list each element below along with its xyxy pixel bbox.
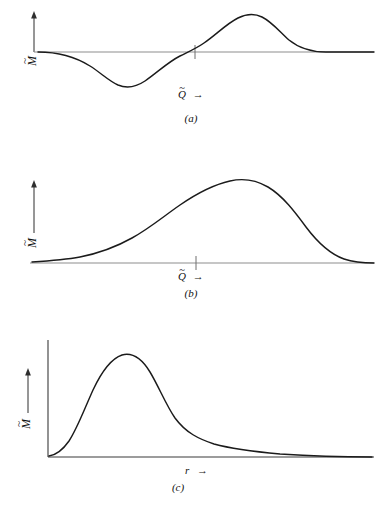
curve-c <box>49 354 372 457</box>
x-axis-label-a-symbol: Q~ <box>178 89 186 100</box>
y-axis-label-b: M~ <box>26 238 38 248</box>
y-axis-arrow-c <box>25 368 31 413</box>
panel-c: M~ r → (c) <box>0 325 383 511</box>
caption-c: (c) <box>150 482 206 493</box>
y-axis-label-a-symbol: M~ <box>26 56 38 66</box>
caption-a: (a) <box>163 113 219 124</box>
x-axis-label-b-accent: ~ <box>179 265 185 275</box>
y-axis-label-a-accent: ~ <box>19 58 30 64</box>
panel-b: M~ Q~ → (b) <box>0 160 383 310</box>
panel-a: M~ Q~ → (a) <box>0 0 383 140</box>
curve-b <box>32 180 374 263</box>
y-axis-label-a: M~ <box>26 56 38 66</box>
y-axis-label-c: M~ <box>20 419 32 429</box>
y-axis-arrow-b <box>31 180 37 233</box>
x-axis-label-a: Q~ → <box>178 89 204 100</box>
curve-a <box>38 14 374 87</box>
x-axis-label-b-symbol: Q~ <box>178 271 186 282</box>
x-axis-label-c-base: r <box>185 464 189 476</box>
y-axis-label-b-symbol: M~ <box>26 238 38 248</box>
x-axis-arrow-b: → <box>193 270 204 282</box>
figure-root: M~ Q~ → (a) M~ Q~ → <box>0 0 383 511</box>
y-axis-label-b-accent: ~ <box>19 240 30 246</box>
y-axis-label-c-accent: ~ <box>13 421 24 427</box>
x-axis-label-b: Q~ → <box>178 271 204 282</box>
y-axis-label-c-symbol: M~ <box>20 419 32 429</box>
x-axis-arrow-c: → <box>197 464 208 476</box>
x-axis-label-a-accent: ~ <box>179 83 185 93</box>
y-axis-arrow-a <box>31 11 37 52</box>
x-axis-label-c: r → <box>185 465 208 476</box>
x-axis-arrow-a: → <box>193 88 204 100</box>
caption-b: (b) <box>163 288 219 299</box>
